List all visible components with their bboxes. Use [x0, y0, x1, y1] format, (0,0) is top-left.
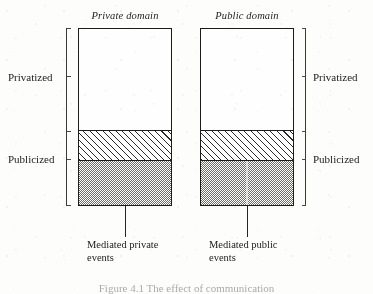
bracket-tick-left-mid: [67, 131, 71, 132]
segment-public-stippled: [201, 160, 293, 205]
column-title-public-domain: Public domain: [200, 10, 294, 21]
bracket-tick-right-publicized: [302, 159, 306, 160]
side-label-publicized-left: Publicized: [8, 153, 54, 165]
bracket-tick-right-privatized: [302, 76, 306, 77]
foot-label-private-line2: events: [87, 252, 197, 265]
scan-streak-artifact: [246, 161, 248, 205]
foot-label-private-line1: Mediated private: [87, 239, 197, 252]
figure-caption: Figure 4.1 The effect of communication: [0, 282, 373, 294]
bracket-tick-left-publicized: [67, 159, 71, 160]
leader-line-public: [247, 206, 248, 237]
foot-label-public-line2: events: [209, 252, 319, 265]
side-label-privatized-right: Privatized: [313, 71, 358, 83]
bracket-tick-right-mid: [302, 131, 306, 132]
side-label-privatized-left: Privatized: [8, 71, 53, 83]
segment-private-hatched: [79, 130, 171, 160]
bracket-tick-right-top: [302, 28, 306, 29]
segment-private-stippled: [79, 160, 171, 205]
column-title-private-domain: Private domain: [78, 10, 172, 21]
leader-line-private: [125, 206, 126, 237]
segment-public-hatched: [201, 130, 293, 160]
side-label-publicized-right: Publicized: [313, 153, 359, 165]
bracket-rail-left: [66, 28, 67, 206]
bracket-tick-right-bottom: [302, 205, 306, 206]
foot-label-public: Mediated public events: [209, 239, 319, 264]
bar-public-domain: [200, 28, 294, 206]
bracket-tick-left-top: [67, 28, 71, 29]
foot-label-private: Mediated private events: [87, 239, 197, 264]
segment-public-unmediated: [201, 29, 293, 130]
bracket-tick-left-privatized: [67, 76, 71, 77]
bracket-rail-right: [305, 28, 306, 206]
foot-label-public-line1: Mediated public: [209, 239, 319, 252]
segment-private-unmediated: [79, 29, 171, 130]
bracket-tick-left-bottom: [67, 205, 71, 206]
bar-private-domain: [78, 28, 172, 206]
